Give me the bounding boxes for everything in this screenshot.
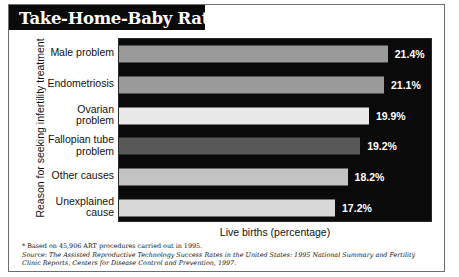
category-label: Other causes <box>28 170 114 182</box>
source-label: Source: <box>22 251 47 259</box>
category-label: Fallopian tubeproblem <box>28 134 114 157</box>
bar <box>119 138 360 155</box>
plot-area: 21.4%21.1%19.9%19.2%18.2%17.2% <box>118 38 432 222</box>
category-label: Endometriosis <box>28 78 114 90</box>
x-axis-title: Live births (percentage) <box>118 226 432 238</box>
bar-value-label: 19.2% <box>367 140 397 152</box>
source-line-2: Clinic Reports, Centers for Disease Cont… <box>22 259 236 267</box>
footnotes: * Based on 45,906 ART procedures carried… <box>22 242 432 268</box>
source-line-1: The Assisted Reproductive Technology Suc… <box>49 251 415 259</box>
bar-value-label: 17.2% <box>342 202 372 214</box>
bar <box>119 46 388 63</box>
category-label-column: Male problemEndometriosisOvarianproblemF… <box>28 38 114 222</box>
title-footnote-marker: * <box>228 7 233 20</box>
bar <box>119 107 369 124</box>
bar-value-label: 21.4% <box>395 48 425 60</box>
category-label: Unexplainedcause <box>28 195 114 218</box>
page-title: Take-Home-Baby Rates* <box>9 7 234 28</box>
chart-title-text: Take-Home-Baby Rates <box>19 9 228 28</box>
bar <box>119 199 335 216</box>
source-note: Source: The Assisted Reproductive Techno… <box>22 251 432 267</box>
bar <box>119 169 348 186</box>
category-label: Ovarianproblem <box>28 103 114 126</box>
bar-value-label: 18.2% <box>355 171 385 183</box>
bar-value-label: 19.9% <box>376 110 406 122</box>
category-label: Male problem <box>28 48 114 60</box>
bar <box>119 77 384 94</box>
footnote-text: * Based on 45,906 ART procedures carried… <box>22 242 432 250</box>
chart-figure: Take-Home-Baby Rates* Reason for seeking… <box>0 0 459 277</box>
chart-title-banner: Take-Home-Baby Rates* <box>9 5 205 30</box>
bar-value-label: 21.1% <box>391 79 421 91</box>
